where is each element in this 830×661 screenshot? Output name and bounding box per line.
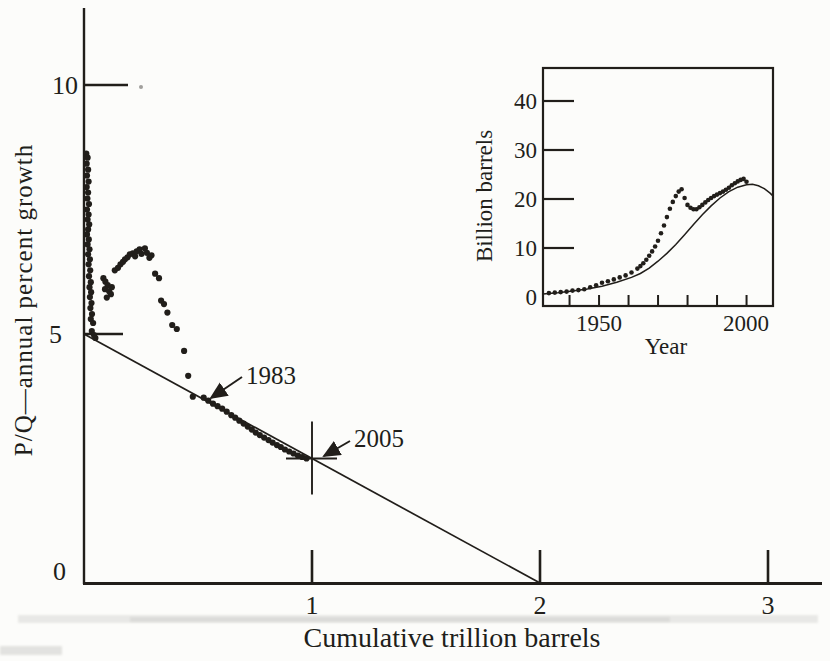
figure-scan: 10 5 0 1 2 3 Cumulative trillion barrels… [0, 0, 830, 661]
projection-cross [286, 422, 337, 495]
inset-y-axis-title: Billion barrels [472, 130, 497, 262]
inset-x-tick-label-2000: 2000 [723, 311, 769, 336]
inset-chart: 40 30 20 10 0 1950 2000 Year Billion bar… [472, 68, 773, 359]
inset-y-tick-label-0: 0 [526, 285, 538, 310]
annotation-2005-label: 2005 [354, 425, 404, 452]
inset-x-axis-title: Year [645, 334, 688, 359]
main-y-tick-label-5: 5 [49, 320, 62, 349]
main-x-ticks [312, 550, 768, 583]
inset-y-tick-label-20: 20 [514, 187, 537, 212]
main-x-axis-title: Cumulative trillion barrels [303, 622, 600, 653]
annotation-1983-arrow [211, 377, 242, 398]
figure-svg: 10 5 0 1 2 3 Cumulative trillion barrels… [0, 0, 830, 661]
main-chart: 10 5 0 1 2 3 Cumulative trillion barrels… [10, 8, 822, 653]
annotation-2005: 2005 [324, 425, 404, 456]
main-y-tick-label-0: 0 [53, 557, 66, 586]
inset-scatter [547, 177, 749, 296]
main-y-axis-title: P/Q—annual percent growth [10, 144, 37, 456]
inset-y-tick-label-10: 10 [514, 236, 537, 261]
main-y-tick-label-10: 10 [52, 71, 78, 100]
inset-y-ticks [543, 101, 574, 248]
inset-y-tick-label-30: 30 [514, 138, 537, 163]
scan-artifact-smudge [0, 646, 62, 655]
annotation-1983-label: 1983 [246, 362, 296, 389]
scan-artifact-speck [139, 85, 143, 89]
inset-x-tick-label-1950: 1950 [576, 311, 622, 336]
annotation-1983: 1983 [211, 362, 296, 398]
main-scatter [83, 151, 309, 462]
inset-y-tick-label-40: 40 [514, 89, 537, 114]
scan-artifacts [0, 85, 818, 655]
scan-artifact-bleedthrough-2 [130, 617, 670, 622]
annotation-2005-arrow [324, 441, 350, 456]
inset-x-ticks [570, 295, 747, 306]
